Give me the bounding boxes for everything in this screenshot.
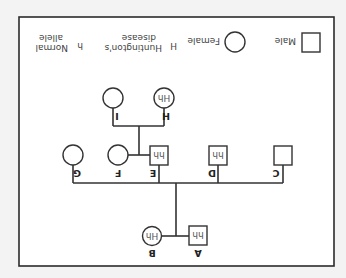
legend-h-line1: Normal [35,43,68,53]
genotype: hh [212,150,223,160]
genotype: hh [153,150,164,160]
genotype: hh [192,230,203,240]
pedigree-svg: hh A Hh B C hh D hh E F G Hh H [0,0,346,278]
individual-label: A [194,248,202,259]
individual-label: F [115,168,122,179]
female-symbol [108,145,128,165]
individual-label: G [73,168,81,179]
legend-H-line1: Huntington's [104,43,162,53]
legend-H-line2: disease [121,33,156,43]
individual-label: C [272,168,279,179]
legend-h-symbol: h [77,41,83,51]
individual-label: H [162,111,170,122]
female-symbol [63,145,83,165]
legend-H-symbol: H [170,41,177,51]
female-symbol [103,88,123,108]
individual-label: B [148,248,155,259]
genotype: Hh [158,93,170,103]
pedigree-figure: hh A Hh B C hh D hh E F G Hh H [0,0,346,278]
individual-label: E [150,168,157,179]
male-symbol [274,146,292,165]
individual-label: D [208,168,216,179]
legend-h-line2: allele [38,33,63,43]
legend-female-icon [225,32,245,52]
legend-male-icon [302,33,320,52]
legend-male-label: Male [274,36,296,46]
legend-female-label: Female [187,36,220,46]
individual-label: I [115,111,119,122]
genotype: Hh [146,231,158,241]
